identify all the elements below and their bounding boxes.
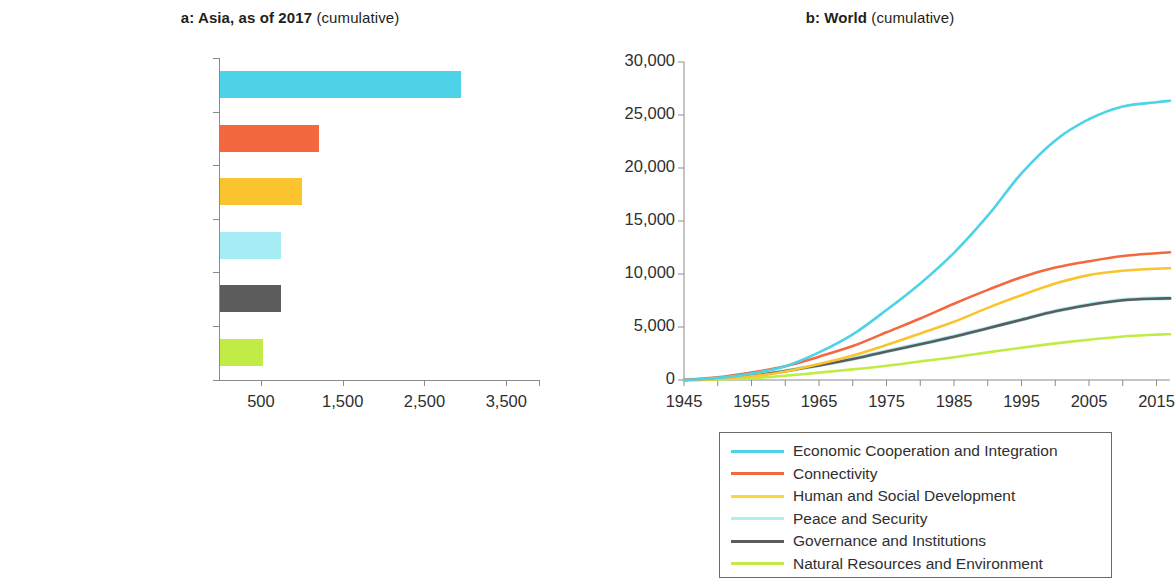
bar-natural-resources-and-environment	[220, 339, 263, 366]
bar-chart-x-tick	[424, 380, 425, 386]
bar-row	[220, 272, 539, 326]
legend-item[interactable]: Governance and Institutions	[720, 530, 1111, 553]
legend-color-swatch	[731, 517, 784, 520]
bar-chart-plot-area	[220, 58, 539, 380]
bar-chart-y-tick	[213, 165, 219, 166]
line-series-human-and-social-development	[684, 268, 1170, 380]
panel-world-line-chart: b: World (cumulative) 30,00025,00020,000…	[600, 0, 1176, 583]
legend-color-swatch	[731, 540, 784, 543]
bar-connectivity	[220, 125, 319, 152]
bar-chart-y-tick	[213, 219, 219, 220]
bar-chart-y-tick	[213, 272, 219, 273]
line-chart-x-tick-label: 1985	[923, 392, 985, 411]
bar-chart-x-tick	[539, 380, 540, 386]
line-chart-y-tick-label: 10,000	[589, 263, 675, 282]
line-chart-y-tick-label: 30,000	[589, 51, 675, 70]
line-chart-y-tick-label: 5,000	[589, 316, 675, 335]
line-chart-x-tick-label: 1955	[721, 392, 783, 411]
bar-row	[220, 112, 539, 166]
line-chart-x-tick-label: 1995	[991, 392, 1053, 411]
bar-chart-x-tick-label: 500	[226, 392, 296, 411]
legend-item-label: Economic Cooperation and Integration	[793, 442, 1058, 460]
bar-chart-x-tick-label: 2,500	[389, 392, 459, 411]
legend-item-label: Connectivity	[793, 465, 877, 483]
bar-chart-x-tick	[506, 380, 507, 386]
bar-chart-y-tick	[213, 112, 219, 113]
legend-color-swatch	[731, 472, 784, 475]
line-chart-x-tick-label: 2005	[1058, 392, 1120, 411]
bar-row	[220, 326, 539, 380]
legend-item[interactable]: Natural Resources and Environment	[720, 553, 1111, 576]
line-chart-legend: Economic Cooperation and IntegrationConn…	[719, 432, 1112, 578]
line-chart-y-tick-label: 15,000	[589, 210, 675, 229]
legend-item[interactable]: Economic Cooperation and Integration	[720, 440, 1111, 463]
bar-economic-cooperation-and-integration	[220, 71, 461, 98]
bar-chart-y-tick	[213, 380, 219, 381]
bar-chart-x-tick-label: 3,500	[471, 392, 541, 411]
bar-chart-x-axis	[219, 380, 539, 381]
bar-human-and-social-development	[220, 178, 302, 205]
legend-color-swatch	[731, 495, 784, 498]
legend-item[interactable]: Connectivity	[720, 463, 1111, 486]
line-chart-x-tick-label: 1975	[856, 392, 918, 411]
legend-item-label: Governance and Institutions	[793, 532, 986, 550]
line-chart-y-tick-label: 0	[589, 369, 675, 388]
legend-item-label: Human and Social Development	[793, 487, 1015, 505]
panel-a-title-main: a: Asia, as of 2017	[181, 9, 312, 26]
bar-chart-y-tick	[213, 326, 219, 327]
line-chart-y-tick-label: 25,000	[589, 104, 675, 123]
bar-row	[220, 58, 539, 112]
legend-item-label: Natural Resources and Environment	[793, 555, 1043, 573]
legend-item-label: Peace and Security	[793, 510, 927, 528]
legend-color-swatch	[731, 562, 784, 565]
legend-item[interactable]: Human and Social Development	[720, 485, 1111, 508]
bar-peace-and-security	[220, 232, 281, 259]
bar-chart-x-tick	[343, 380, 344, 386]
panel-asia-bar-chart: a: Asia, as of 2017 (cumulative) Economi…	[0, 0, 600, 583]
line-chart-x-tick-label: 1965	[788, 392, 850, 411]
bar-chart-x-tick-label: 1,500	[308, 392, 378, 411]
bar-row	[220, 165, 539, 219]
bar-row	[220, 219, 539, 273]
line-chart-x-tick-label: 1945	[653, 392, 715, 411]
panel-a-title: a: Asia, as of 2017 (cumulative)	[0, 9, 590, 26]
legend-color-swatch	[731, 450, 784, 453]
panel-a-title-sub: (cumulative)	[316, 9, 399, 26]
bar-governance-and-institutions	[220, 285, 281, 312]
bar-chart-x-tick	[261, 380, 262, 386]
line-chart-x-tick-label: 2015	[1126, 392, 1176, 411]
bar-chart-y-tick	[213, 58, 219, 59]
line-chart-y-tick-label: 20,000	[589, 157, 675, 176]
legend-item[interactable]: Peace and Security	[720, 508, 1111, 531]
